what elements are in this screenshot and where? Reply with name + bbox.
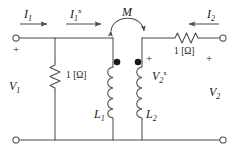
label-series-resistor-value: 1 [Ω]: [174, 47, 195, 57]
label-current-mid: I1x: [70, 8, 82, 23]
mutual-coupling-arc: [111, 18, 144, 31]
label-inductor-primary: L1: [94, 108, 105, 123]
polarity-right-plus: +: [206, 53, 212, 64]
label-current-input: I1: [24, 8, 32, 23]
label-mutual-inductance: M: [122, 6, 132, 18]
circuit-diagram: I1 I1x M I2 + + + V1 V2 V2x 1 [Ω] 1 [Ω] …: [0, 0, 239, 162]
series-resistor-symbol: [172, 33, 199, 43]
inductor-primary-coil: [108, 67, 113, 118]
terminal-bottom-right: [220, 137, 226, 143]
label-shunt-resistor-value: 1 [Ω]: [66, 71, 87, 81]
dot-marker-primary: [114, 59, 121, 66]
inductor-secondary-coil: [137, 67, 142, 118]
dot-marker-secondary: [135, 59, 142, 66]
shunt-resistor-symbol: [50, 62, 60, 90]
label-inductor-secondary: L2: [146, 108, 157, 123]
circuit-schematic-svg: [0, 0, 239, 162]
label-voltage-mid: V2x: [152, 70, 167, 85]
label-voltage-output: V2: [209, 86, 220, 101]
polarity-mid-plus: +: [146, 53, 152, 64]
terminal-bottom-left: [13, 137, 19, 143]
label-voltage-input: V1: [9, 80, 20, 95]
label-current-output: I2: [207, 8, 215, 23]
terminal-top-left: [13, 35, 19, 41]
polarity-left-plus: +: [13, 44, 19, 55]
terminal-top-right: [220, 35, 226, 41]
